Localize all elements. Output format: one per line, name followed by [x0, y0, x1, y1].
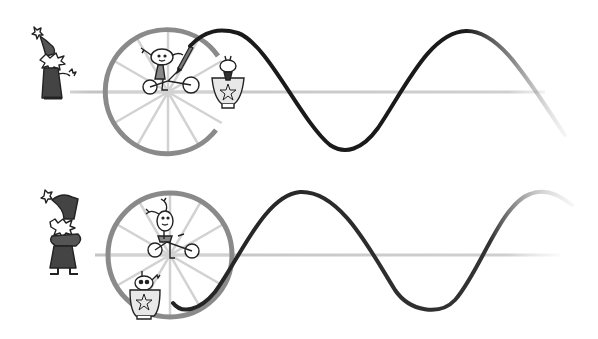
- wizard-icon: [32, 27, 76, 98]
- illustration: Hand-drawn illustration: two panels show…: [0, 0, 598, 339]
- panel-top: [32, 27, 565, 154]
- panel-bottom: [41, 190, 572, 319]
- sine-curve: [190, 31, 565, 150]
- wheel: [105, 30, 230, 154]
- wizard-icon: [41, 190, 81, 274]
- pencil-icon: [177, 46, 193, 73]
